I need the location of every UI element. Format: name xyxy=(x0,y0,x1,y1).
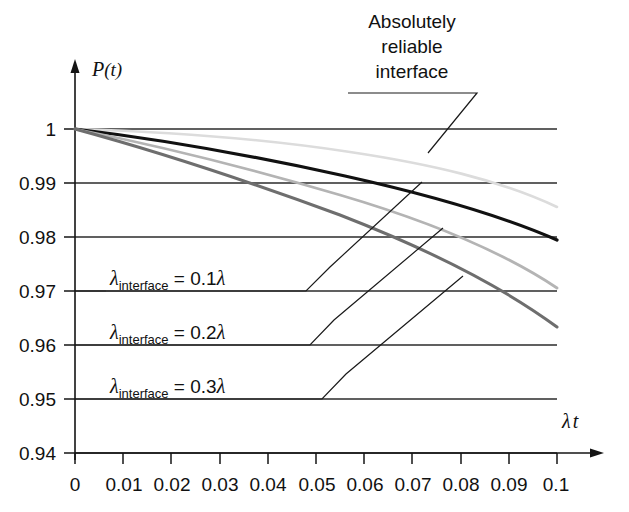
y-axis-title-p: P xyxy=(91,58,104,80)
chart-container: 1 0.99 0.98 0.97 0.96 0.95 0.94 0 0.01 0… xyxy=(0,0,629,512)
series-value-0.1: 0.1 xyxy=(190,268,216,289)
x-axis xyxy=(75,449,604,465)
x-tick-label-0.01: 0.01 xyxy=(106,474,143,495)
x-axis-arrowhead xyxy=(590,449,604,458)
x-axis-title-lambda: λ xyxy=(561,410,571,432)
y-tick-label-1.00: 1 xyxy=(45,119,56,140)
equals-sign: = xyxy=(169,376,191,397)
curve-lambda-interface-0.3 xyxy=(75,129,557,327)
y-tick-label-0.95: 0.95 xyxy=(19,389,56,410)
x-tick-labels: 0 0.01 0.02 0.03 0.04 0.05 0.06 0.07 0.0… xyxy=(70,474,570,495)
y-axis-arrowhead xyxy=(71,59,80,73)
reliability-line-chart: 1 0.99 0.98 0.97 0.96 0.95 0.94 0 0.01 0… xyxy=(0,0,629,512)
series-label-0.1-text: λinterface = 0.1λ xyxy=(109,267,226,293)
axis-titles: P(t) λt xyxy=(91,58,579,432)
x-tick-label-0.09: 0.09 xyxy=(491,474,528,495)
x-tick-label-0.05: 0.05 xyxy=(299,474,336,495)
annotation-line-2: reliable xyxy=(381,36,442,57)
annotation-line-3: interface xyxy=(376,61,449,82)
y-axis-title-arg: (t) xyxy=(104,59,122,81)
x-axis-title-t: t xyxy=(573,410,579,432)
x-tick-label-0.04: 0.04 xyxy=(250,474,287,495)
series-label-0.2-text: λinterface = 0.2λ xyxy=(109,321,226,347)
y-tick-label-0.99: 0.99 xyxy=(19,173,56,194)
y-axis xyxy=(64,59,80,460)
x-tick-label-0.06: 0.06 xyxy=(347,474,384,495)
x-tick-label-0.1: 0.1 xyxy=(543,474,569,495)
lambda-symbol-trailing: λ xyxy=(216,321,226,343)
lambda-symbol-trailing: λ xyxy=(216,267,226,289)
x-tick-label-0.07: 0.07 xyxy=(395,474,432,495)
x-axis-title: λt xyxy=(561,410,579,432)
x-ticks xyxy=(75,453,557,464)
label-tick-stubs xyxy=(75,291,112,399)
y-tick-label-0.98: 0.98 xyxy=(19,227,56,248)
annotation-leader-line xyxy=(348,93,477,153)
x-tick-label-0: 0 xyxy=(70,474,81,495)
lambda-symbol: λ xyxy=(109,267,119,289)
annotation-absolutely-reliable-interface: Absolutely reliable interface xyxy=(348,11,477,153)
series-label-0.3-text: λinterface = 0.3λ xyxy=(109,375,226,401)
series-value-0.2: 0.2 xyxy=(190,322,216,343)
equals-sign: = xyxy=(169,322,191,343)
lambda-symbol: λ xyxy=(109,321,119,343)
series-value-0.3: 0.3 xyxy=(190,376,216,397)
y-axis-title: P(t) xyxy=(91,58,122,81)
x-tick-label-0.02: 0.02 xyxy=(154,474,191,495)
x-tick-label-0.08: 0.08 xyxy=(443,474,480,495)
y-tick-labels: 1 0.99 0.98 0.97 0.96 0.95 0.94 xyxy=(19,119,56,464)
lambda-symbol-trailing: λ xyxy=(216,375,226,397)
y-tick-label-0.97: 0.97 xyxy=(19,281,56,302)
y-tick-label-0.94: 0.94 xyxy=(19,443,56,464)
lambda-symbol: λ xyxy=(109,375,119,397)
annotation-line-1: Absolutely xyxy=(368,11,456,32)
equals-sign: = xyxy=(169,268,191,289)
curve-lambda-interface-0.2 xyxy=(75,129,557,288)
y-tick-label-0.96: 0.96 xyxy=(19,335,56,356)
series-curves xyxy=(75,129,557,327)
x-tick-label-0.03: 0.03 xyxy=(202,474,239,495)
curve-absolutely-reliable-interface xyxy=(75,129,557,207)
